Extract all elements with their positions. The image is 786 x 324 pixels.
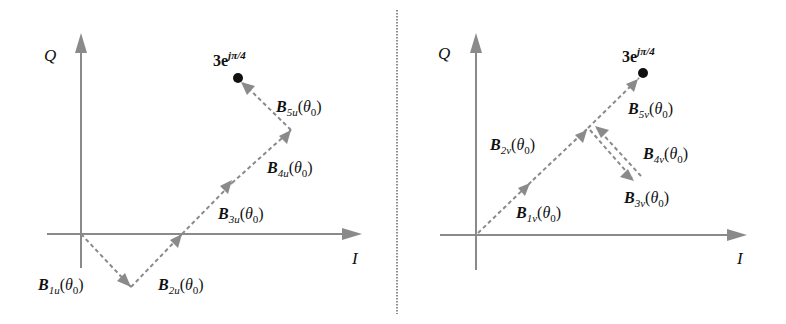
vec-sub: 1ν <box>527 212 537 224</box>
vec-name: B <box>643 145 654 162</box>
label-b5v: B5ν(θ0) <box>628 101 673 120</box>
left-i-label: I <box>352 250 358 267</box>
vec-name: B <box>490 136 501 153</box>
arrowhead-b3u-icon <box>220 180 232 194</box>
left-arrowheads <box>117 82 291 287</box>
vec-arg: θ <box>303 98 311 115</box>
target-exponent: jπ/4 <box>228 49 246 61</box>
left-vectors <box>81 80 291 287</box>
vec-name: B <box>218 205 229 222</box>
vec-name: B <box>158 276 169 293</box>
target-base: 3e <box>213 52 228 69</box>
vec-arg-sub: 0 <box>662 108 668 120</box>
vec-arg-sub: 0 <box>73 284 79 296</box>
arrowhead-b5u-icon <box>241 82 255 95</box>
vec-sub: 1u <box>49 284 60 296</box>
label-b1u: B1u(θ0) <box>38 277 84 296</box>
label-b3u: B3u(θ0) <box>218 206 264 225</box>
vec-arg: θ <box>185 276 193 293</box>
right-i-label: I <box>737 250 743 267</box>
left-i-arrow-icon <box>342 228 362 240</box>
label-b2u: B2u(θ0) <box>158 277 204 296</box>
vec-arg-sub: 0 <box>677 153 683 165</box>
left-target-label: 3ejπ/4 <box>213 50 246 69</box>
right-i-arrow-icon <box>727 229 747 241</box>
vec-sub: 5u <box>287 106 298 118</box>
left-q-arrow-icon <box>75 33 87 53</box>
arrowhead-b2v-icon <box>575 130 587 143</box>
left-target-point <box>233 73 243 83</box>
vec-arg-sub: 0 <box>193 284 199 296</box>
vec-sub: 4u <box>278 167 289 179</box>
label-b3v: B3ν(θ0) <box>624 190 669 209</box>
arrowhead-b4v-icon <box>595 126 609 138</box>
vec-arg-sub: 0 <box>302 167 308 179</box>
vec-sub: 3u <box>229 213 240 225</box>
arrowhead-b5v-icon <box>626 79 638 92</box>
right-axes <box>440 33 747 270</box>
label-b5u: B5u(θ0) <box>276 99 322 118</box>
vec-name: B <box>276 98 287 115</box>
left-q-label: Q <box>44 47 56 64</box>
left-axes <box>47 33 362 268</box>
vec-sub: 5ν <box>639 108 649 120</box>
vec-arg: θ <box>245 205 253 222</box>
vec-arg-sub: 0 <box>524 144 530 156</box>
vec-sub: 2ν <box>501 144 511 156</box>
right-target-label: 3ejπ/4 <box>622 46 655 65</box>
label-b2v: B2ν(θ0) <box>490 137 535 156</box>
label-b4v: B4ν(θ0) <box>643 146 688 165</box>
vec-name: B <box>628 100 639 117</box>
vec-arg: θ <box>65 276 73 293</box>
vec-sub: 2u <box>169 284 180 296</box>
arrowhead-b3v-icon <box>620 169 634 181</box>
target-base: 3e <box>622 48 637 65</box>
vec-sub: 4ν <box>654 153 664 165</box>
arrowhead-b4u-icon <box>279 130 291 144</box>
vector-b3v <box>590 130 632 178</box>
vec-name: B <box>267 159 278 176</box>
vec-name: B <box>624 189 635 206</box>
vec-arg-sub: 0 <box>311 106 317 118</box>
target-exponent: jπ/4 <box>637 45 655 57</box>
vec-sub: 3ν <box>635 197 645 209</box>
right-q-arrow-icon <box>470 33 482 53</box>
vec-arg: θ <box>294 159 302 176</box>
vec-arg-sub: 0 <box>253 213 259 225</box>
vec-name: B <box>516 204 527 221</box>
vec-arg-sub: 0 <box>658 197 664 209</box>
vec-name: B <box>38 276 49 293</box>
label-b1v: B1ν(θ0) <box>516 205 561 224</box>
vec-arg-sub: 0 <box>550 212 556 224</box>
right-target-point <box>638 68 648 78</box>
right-q-label: Q <box>438 45 450 62</box>
label-b4u: B4u(θ0) <box>267 160 313 179</box>
